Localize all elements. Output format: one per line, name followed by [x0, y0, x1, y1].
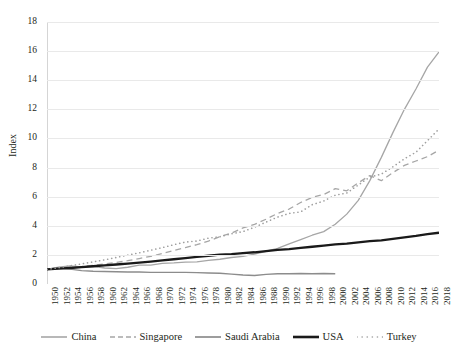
gridlines	[47, 22, 439, 284]
legend-item-usa[interactable]: USA	[293, 331, 344, 342]
y-axis-tick-label: 6	[32, 192, 37, 202]
x-axis-tick-label: 1982	[235, 287, 244, 305]
x-axis-tick-label: 1956	[86, 287, 95, 305]
y-axis-tick-label: 8	[32, 163, 37, 173]
x-axis-tick-label: 1972	[178, 287, 187, 305]
x-axis-tick-label: 2002	[351, 287, 360, 305]
y-axis-tick-label: 16	[28, 46, 38, 56]
solid-thick-black-line	[293, 332, 319, 342]
gridline	[47, 22, 439, 23]
y-axis-tick-label: 18	[28, 17, 38, 27]
x-axis-tick-label: 1988	[270, 287, 279, 305]
gridline	[47, 109, 439, 110]
plot-area	[47, 22, 439, 284]
x-axis-tick-label: 2010	[397, 287, 406, 305]
legend-label: China	[71, 331, 96, 342]
line-chart-figure: Index 024681012141618 195019521954195619…	[0, 0, 458, 357]
x-axis-tick-label: 1976	[201, 287, 210, 305]
legend-item-turkey[interactable]: Turkey	[357, 331, 417, 342]
legend-label: Singapore	[140, 331, 183, 342]
y-axis-tick-label: 2	[32, 250, 37, 260]
dashed-light-line	[110, 332, 136, 342]
y-axis-tick-label: 4	[32, 221, 37, 231]
x-axis-tick-label: 1980	[224, 287, 233, 305]
dotted-light-line	[357, 332, 383, 342]
x-axis-tick-label: 1992	[293, 287, 302, 305]
solid-mid-line	[195, 332, 221, 342]
x-axis-tick-label: 1964	[132, 287, 141, 305]
gridline	[47, 255, 439, 256]
x-axis-tick-label: 1954	[74, 287, 83, 305]
gridline	[47, 197, 439, 198]
x-axis-tick-label: 2008	[385, 287, 394, 305]
chart-legend: ChinaSingaporeSaudi ArabiaUSATurkey	[0, 331, 458, 342]
y-axis-tick-label: 12	[28, 105, 38, 115]
gridline	[47, 51, 439, 52]
x-axis-tick-label: 1950	[51, 287, 60, 305]
legend-item-saudi-arabia[interactable]: Saudi Arabia	[195, 331, 280, 342]
legend-label: Saudi Arabia	[225, 331, 280, 342]
x-axis-tick-label: 1994	[305, 287, 314, 305]
x-axis-tick-label: 2018	[443, 287, 452, 305]
legend-item-china[interactable]: China	[41, 331, 96, 342]
y-axis-tick-label: 0	[32, 279, 37, 289]
x-axis-tick-label: 1984	[247, 287, 256, 305]
x-axis-tick-label: 1962	[120, 287, 129, 305]
x-axis-tick-label: 1966	[143, 287, 152, 305]
x-axis-tick-label: 1958	[97, 287, 106, 305]
y-axis-tick-label: 14	[28, 75, 38, 85]
legend-item-singapore[interactable]: Singapore	[110, 331, 183, 342]
x-axis-tick-label: 2012	[408, 287, 417, 305]
gridline	[47, 226, 439, 227]
x-axis-tick-label: 1968	[155, 287, 164, 305]
y-axis-tick-labels: 024681012141618	[0, 22, 42, 284]
x-axis-tick-label: 1974	[189, 287, 198, 305]
x-axis-tick-label: 1960	[109, 287, 118, 305]
x-axis-tick-label: 2004	[362, 287, 371, 305]
x-axis-tick-label: 1986	[259, 287, 268, 305]
x-axis-tick-label: 2000	[339, 287, 348, 305]
solid-light-line	[41, 332, 67, 342]
y-axis-tick-label: 10	[28, 134, 38, 144]
legend-label: USA	[323, 331, 344, 342]
x-axis-tick-label: 1970	[166, 287, 175, 305]
x-axis-tick-label: 1998	[328, 287, 337, 305]
x-axis-tick-label: 1996	[316, 287, 325, 305]
gridline	[47, 168, 439, 169]
x-axis-tick-label: 2016	[431, 287, 440, 305]
x-axis-tick-label: 1990	[282, 287, 291, 305]
x-axis-tick-label: 1952	[63, 287, 72, 305]
x-axis-tick-label: 2014	[420, 287, 429, 305]
legend-label: Turkey	[387, 331, 417, 342]
gridline	[47, 80, 439, 81]
x-axis-tick-label: 2006	[374, 287, 383, 305]
x-axis-tick-labels: 1950195219541956195819601962196419661968…	[47, 287, 439, 325]
x-axis-tick-label: 1978	[212, 287, 221, 305]
gridline	[47, 138, 439, 139]
